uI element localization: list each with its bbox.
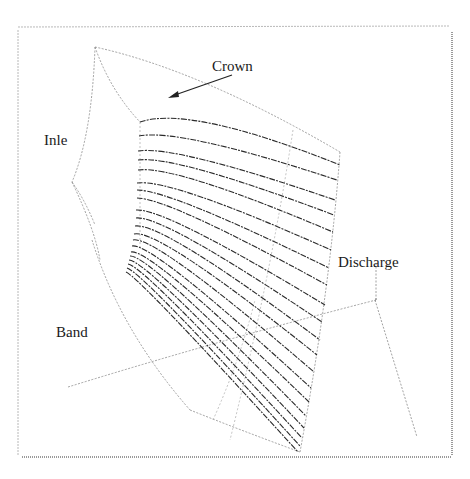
blade-lines <box>126 118 340 452</box>
inlet-label: Inle <box>44 133 67 148</box>
crown-arrow <box>168 75 232 98</box>
crown-label: Crown <box>212 59 253 74</box>
figure-frame <box>18 26 452 457</box>
discharge-label: Discharge <box>338 255 399 270</box>
blade-mesh-grid <box>140 122 293 440</box>
band-label: Band <box>56 325 88 340</box>
